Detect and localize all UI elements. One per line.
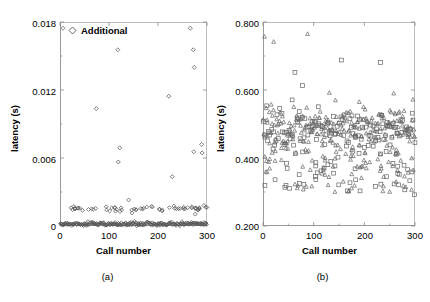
x-axis-title-b: Call number — [302, 246, 357, 256]
ytick-label-a-1: 0.006 — [8, 155, 56, 165]
legend-a: Additional — [68, 26, 127, 36]
scatter-plot-b — [215, 0, 430, 302]
panel-caption-b: (b) — [215, 272, 430, 282]
xtick-label-a-0: 0 — [46, 231, 74, 241]
chart-panel-b: 0.800 0.600 0.400 0.200 0 100 200 300 la… — [215, 0, 430, 302]
xtick-label-b-0: 0 — [249, 231, 277, 241]
x-axis-title-a: Call number — [96, 246, 151, 256]
ytick-label-b-3: 0.800 — [215, 19, 259, 29]
figure-container: 0.018 0.012 0.006 0 0 100 200 300 latenc… — [0, 0, 430, 302]
scatter-plot-a — [0, 0, 215, 302]
diamond-icon — [68, 26, 77, 35]
ytick-label-a-2: 0.012 — [8, 87, 56, 97]
xtick-label-a-2: 200 — [144, 231, 172, 241]
ytick-label-b-2: 0.600 — [215, 87, 259, 97]
xtick-label-b-3: 300 — [401, 231, 429, 241]
legend-label-a: Additional — [81, 26, 127, 36]
ytick-label-b-1: 0.400 — [215, 155, 259, 165]
chart-panel-a: 0.018 0.012 0.006 0 0 100 200 300 latenc… — [0, 0, 215, 302]
y-axis-title-b: latency (s) — [216, 105, 226, 152]
y-axis-title-a: latency (s) — [10, 105, 20, 152]
xtick-label-b-2: 200 — [351, 231, 379, 241]
panel-caption-a: (a) — [0, 272, 215, 282]
xtick-label-a-1: 100 — [95, 231, 123, 241]
xtick-label-b-1: 100 — [300, 231, 328, 241]
ytick-label-a-3: 0.018 — [8, 19, 56, 29]
